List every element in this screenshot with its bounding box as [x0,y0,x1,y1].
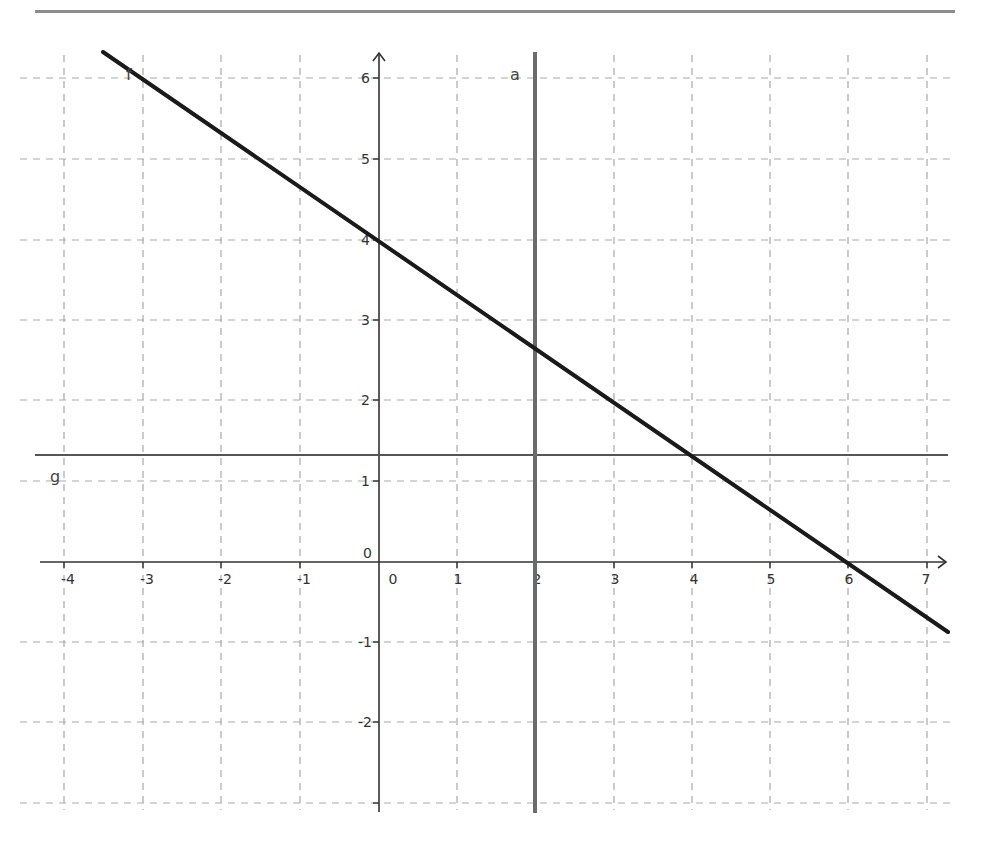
x-tick-labels: -4 -3 -2 -1 0 1 2 3 4 5 6 7 [61,571,930,587]
x-tick-label: 7 [922,571,931,587]
line-f [103,52,948,632]
y-tick-label: -2 [358,714,372,730]
label-f: f [126,65,132,84]
y-axis [373,53,385,812]
y-tick-label: 6 [361,70,370,86]
y-tick-label: 5 [361,151,370,167]
label-g: g [50,467,60,486]
coordinate-plane: -4 -3 -2 -1 0 1 2 3 4 5 6 7 6 5 4 3 2 1 … [0,0,989,847]
x-tick-label: 3 [611,571,620,587]
x-tick-label: 4 [690,571,699,587]
label-a: a [510,65,520,84]
x-tick-label: 1 [454,571,463,587]
x-tick-label: 5 [767,571,776,587]
x-tick-label: -2 [218,571,232,587]
grid [20,55,950,810]
y-tick-label: -1 [358,634,372,650]
y-tick-labels: 6 5 4 3 2 1 0 -1 -2 [358,70,372,730]
y-tick-label: 3 [361,312,370,328]
x-tick-label: 6 [845,571,854,587]
x-tick-label: -4 [61,571,75,587]
x-tick-label: -1 [297,571,311,587]
x-ticks [64,562,927,568]
x-tick-label: -3 [140,571,154,587]
x-tick-label: 0 [389,571,398,587]
x-axis [40,556,946,568]
y-tick-label: 0 [363,545,372,561]
y-tick-label: 1 [361,473,370,489]
y-ticks [373,78,379,803]
y-tick-label: 2 [361,392,370,408]
